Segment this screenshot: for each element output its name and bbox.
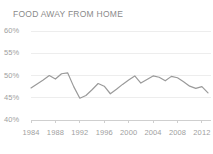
gridlines	[31, 31, 211, 98]
x-axis-tick-label: 2012	[193, 128, 210, 137]
series-polyline	[31, 73, 208, 98]
x-axis-tick-label: 1996	[96, 128, 113, 137]
data-series-line	[31, 73, 208, 98]
plot-area: 40%45%50%55%60% 198419881992199620002004…	[0, 0, 213, 154]
x-axis-tick-label: 1992	[71, 128, 88, 137]
y-axis-tick-label: 50%	[4, 71, 19, 80]
chart-card: FOOD AWAY FROM HOME 40%45%50%55%60% 1984…	[0, 0, 213, 154]
y-axis-tick-label: 45%	[4, 93, 19, 102]
x-axis-tick-label: 2004	[145, 128, 162, 137]
y-axis-tick-label: 55%	[4, 48, 19, 57]
x-axis-tick-label: 2008	[169, 128, 186, 137]
y-axis-tick-label: 60%	[4, 26, 19, 35]
x-axis-tick-label: 1988	[47, 128, 64, 137]
y-axis-tick-label: 40%	[4, 115, 19, 124]
x-axis-tick-label: 1984	[22, 128, 39, 137]
x-axis-tick-label: 2000	[120, 128, 137, 137]
